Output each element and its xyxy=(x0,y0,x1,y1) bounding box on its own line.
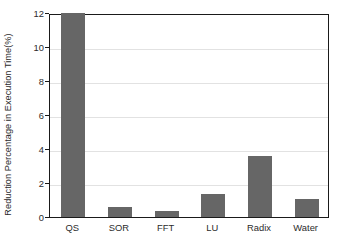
y-tick: 10 xyxy=(34,42,49,54)
y-tick-label: 4 xyxy=(39,145,49,154)
x-tick-label: Water xyxy=(282,221,329,235)
bar-radix xyxy=(248,156,272,217)
y-tick: 12 xyxy=(34,8,49,20)
y-tick: 0 xyxy=(39,212,49,224)
y-tick: 2 xyxy=(39,178,49,190)
y-tick-label: 12 xyxy=(34,9,49,18)
x-tick-label: SOR xyxy=(96,221,143,235)
y-tick-label: 2 xyxy=(39,179,49,188)
y-tick-label: 0 xyxy=(39,213,49,222)
bar-sor xyxy=(108,207,132,217)
bar-water xyxy=(295,199,319,217)
x-tick-label: QS xyxy=(49,221,96,235)
bars-layer xyxy=(50,15,328,217)
plot-area xyxy=(49,14,329,218)
bar-chart-figure: Reduction Percentage in Execution Time(%… xyxy=(0,0,337,249)
y-tick: 8 xyxy=(39,76,49,88)
y-axis-ticks: 024681012 xyxy=(0,0,49,204)
y-tick-label: 10 xyxy=(34,43,49,52)
bar-qs xyxy=(61,13,85,217)
x-tick-label: FFT xyxy=(142,221,189,235)
y-tick: 6 xyxy=(39,110,49,122)
y-tick-label: 6 xyxy=(39,111,49,120)
x-tick-label: Radix xyxy=(236,221,283,235)
y-tick-label: 8 xyxy=(39,77,49,86)
y-tick: 4 xyxy=(39,144,49,156)
bar-lu xyxy=(201,194,225,217)
x-axis-ticks: QSSORFFTLURadixWater xyxy=(49,221,329,237)
bar-fft xyxy=(155,211,179,217)
x-tick-label: LU xyxy=(189,221,236,235)
